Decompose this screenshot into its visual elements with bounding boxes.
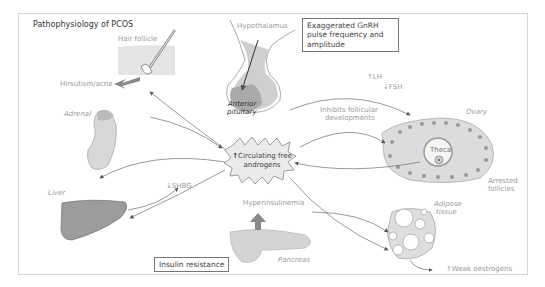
insulin-text: Insulin resistance bbox=[159, 260, 224, 269]
lh-label: ↑LH bbox=[367, 73, 382, 81]
anterior-pituitary-label-2: pituitary bbox=[227, 108, 257, 116]
pcos-diagram-art bbox=[0, 0, 545, 287]
adrenal-label: Adrenal bbox=[64, 110, 91, 118]
pituitary-icon bbox=[227, 20, 295, 113]
hair-follicle-label: Hair follicle bbox=[118, 35, 157, 43]
gnrh-box: Exaggerated GnRH pulse frequency and amp… bbox=[302, 18, 399, 52]
shbg-label: ↓SHBG bbox=[166, 182, 192, 190]
hyperinsulinemia-label: Hyperinsulinemia bbox=[243, 199, 304, 207]
insulin-resistance-box: Insulin resistance bbox=[154, 257, 229, 272]
fsh-label: ↓FSH bbox=[383, 83, 402, 91]
theca-label: Theca bbox=[430, 146, 451, 154]
hypothalamus-label: Hypothalamus bbox=[237, 22, 288, 30]
circulating-androgens-label: ↑Circulating free androgens bbox=[232, 152, 292, 171]
center-line-2: androgens bbox=[243, 161, 280, 169]
ovary-label: Ovary bbox=[466, 108, 487, 116]
adipose-icon bbox=[388, 209, 436, 259]
inhibit-label-2: developments bbox=[325, 114, 375, 122]
weak-oestrogens-label: ↑Weak oestrogens bbox=[446, 265, 512, 273]
pancreas-label: Pancreas bbox=[278, 256, 310, 264]
adrenal-icon bbox=[88, 110, 117, 170]
diagram-title: Pathophysiology of PCOS bbox=[33, 20, 133, 29]
liver-label: Liver bbox=[48, 189, 65, 197]
adipose-label-2: tissue bbox=[436, 208, 457, 216]
gnrh-text: Exaggerated GnRH pulse frequency and amp… bbox=[307, 21, 384, 49]
hyperinsulinemia-arrow bbox=[250, 213, 266, 230]
arrested-label-2: follicles bbox=[488, 185, 514, 193]
center-line-1: Circulating free bbox=[238, 152, 292, 160]
hirsutism-label: Hirsutism/acne bbox=[60, 80, 113, 88]
hirsutism-arrow bbox=[114, 77, 140, 89]
liver-icon bbox=[61, 200, 127, 240]
